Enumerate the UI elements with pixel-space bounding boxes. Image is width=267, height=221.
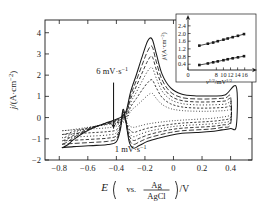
inset-data-marker xyxy=(237,56,240,59)
x-tick-label: −0.2 xyxy=(137,163,152,173)
y-tick-label: −2 xyxy=(32,155,41,165)
inset-data-marker xyxy=(231,36,234,39)
main-x-axis-denominator: AgCl xyxy=(147,191,166,201)
inset-y-tick-label: 0.8 xyxy=(178,53,186,60)
x-tick-label: −0.8 xyxy=(52,163,67,173)
inset-y-tick-label: 1.2 xyxy=(178,45,186,52)
inset-x-tick-label: 8 xyxy=(215,71,218,78)
inset-y-tick-label: 1.6 xyxy=(178,37,186,44)
inset-data-marker xyxy=(212,41,215,44)
inset-y-axis-title: j/(A·cm−2) xyxy=(160,32,169,60)
inset-data-marker xyxy=(216,40,219,43)
inset-data-marker xyxy=(207,62,210,65)
inset-y-tick-label: 0.4 xyxy=(178,60,186,67)
inset-data-marker xyxy=(198,44,201,47)
main-x-axis-unit: /V xyxy=(180,184,190,194)
inset-data-marker xyxy=(243,55,246,58)
inset-y-tick-label: 2.4 xyxy=(178,22,186,29)
main-x-axis-symbol: E xyxy=(100,181,108,193)
inset-x-tick-label: 16 xyxy=(242,71,248,78)
inset-x-tick-label: 14 xyxy=(235,71,241,78)
figure-canvas: −0.8−0.6−0.4−0.200.20.4−2−101234j/(A·cm−… xyxy=(0,0,267,221)
inset-data-marker xyxy=(207,42,210,45)
inset-data-marker xyxy=(216,60,219,63)
paren-right xyxy=(176,181,178,199)
y-tick-label: 3 xyxy=(37,49,41,59)
cv-curve xyxy=(62,80,231,135)
inset-x-tick-label: 0 xyxy=(186,71,189,78)
inset-x-axis-title: ν1/2/mV1/2 xyxy=(206,78,233,86)
inset-data-marker xyxy=(212,61,215,64)
y-tick-label: 4 xyxy=(37,28,42,38)
inset-y-tick-label: 2.0 xyxy=(178,30,186,37)
y-tick-label: 0 xyxy=(37,113,41,123)
y-tick-label: 1 xyxy=(37,91,41,101)
inset-data-marker xyxy=(222,59,225,62)
cv-figure: −0.8−0.6−0.4−0.200.20.4−2−101234j/(A·cm−… xyxy=(0,0,267,221)
x-tick-label: 0 xyxy=(171,163,175,173)
inset-data-marker xyxy=(226,37,229,40)
inset-data-marker xyxy=(226,58,229,61)
y-tick-label: 2 xyxy=(37,70,41,80)
main-x-axis-vs: vs. xyxy=(127,184,137,194)
inset-data-marker xyxy=(222,38,225,41)
main-y-axis-title: j/(A·cm−2) xyxy=(7,71,19,110)
inset-data-marker xyxy=(237,35,240,38)
x-tick-label: 0.2 xyxy=(197,163,208,173)
inset-data-marker xyxy=(243,33,246,36)
inset-data-marker xyxy=(198,64,201,67)
inset-data-marker xyxy=(231,57,234,60)
y-tick-label: −1 xyxy=(32,134,41,144)
x-tick-label: −0.4 xyxy=(109,163,125,173)
x-tick-label: 0.4 xyxy=(225,163,236,173)
x-tick-label: −0.6 xyxy=(80,163,95,173)
slow-scan-rate-label: 1 mV·s−1 xyxy=(115,144,147,154)
main-x-axis-numerator: Ag xyxy=(151,180,162,190)
paren-left xyxy=(114,181,116,199)
fast-scan-rate-label: 6 mV·s−1 xyxy=(96,66,128,76)
